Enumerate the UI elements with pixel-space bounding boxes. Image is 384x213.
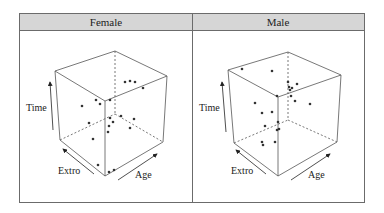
female-age-label: Age: [135, 169, 152, 180]
male-age-label: Age: [308, 169, 325, 180]
female-time-label: Time: [26, 102, 47, 113]
female-extro-label: Extro: [58, 165, 80, 176]
female-points: [81, 80, 145, 174]
cube-plots: Time Extro Age Time Extro Age: [0, 0, 384, 213]
female-cube: [55, 51, 167, 176]
male-extro-label: Extro: [231, 165, 253, 176]
male-time-label: Time: [199, 102, 220, 113]
male-points: [241, 68, 312, 147]
